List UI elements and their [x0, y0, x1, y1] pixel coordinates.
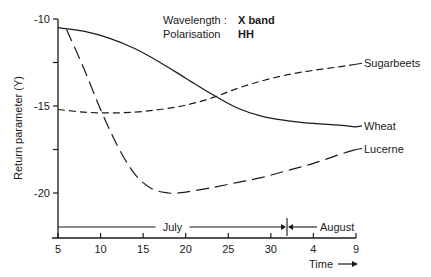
- annotation-wavelength-value: X band: [238, 14, 275, 26]
- x-tick-label: 25: [222, 243, 234, 255]
- annotation-polarisation-value: HH: [238, 28, 254, 40]
- month-band: JulyAugust: [58, 218, 354, 236]
- y-tick-label: -15: [34, 100, 50, 112]
- x-tick-label: 30: [265, 243, 277, 255]
- x-tick-label: 15: [137, 243, 149, 255]
- series-leader-lucerne: [356, 149, 362, 150]
- series-label-wheat: Wheat: [364, 120, 396, 132]
- series-leader-wheat: [356, 126, 362, 127]
- y-axis-title: Return parameter (Y): [12, 76, 24, 180]
- arrow-right-icon: [281, 224, 286, 230]
- series-group: WheatSugarbeetsLucerne: [58, 28, 421, 194]
- chart: -10-15-20 5101520253049 JulyAugust Wheat…: [0, 0, 431, 277]
- month-label-august: August: [320, 221, 354, 233]
- series-label-sugarbeets: Sugarbeets: [364, 57, 421, 69]
- annotation-polarisation-label: Polarisation: [163, 28, 220, 40]
- x-axis-title: Time: [309, 258, 333, 270]
- x-tick-label: 20: [180, 243, 192, 255]
- x-tick-label: 10: [94, 243, 106, 255]
- series-leader-sugarbeets: [356, 63, 362, 64]
- x-tick-label: 9: [353, 243, 359, 255]
- month-label-july: July: [163, 221, 183, 233]
- x-ticks: 5101520253049: [55, 233, 359, 255]
- x-tick-label: 4: [310, 243, 316, 255]
- y-ticks: -10-15-20: [34, 13, 58, 199]
- y-tick-label: -10: [34, 13, 50, 25]
- annotation-wavelength-label: Wavelength :: [163, 14, 227, 26]
- series-line-wheat: [58, 28, 356, 127]
- time-arrow-icon: [338, 261, 358, 267]
- series-line-lucerne: [67, 29, 356, 193]
- series-label-lucerne: Lucerne: [364, 143, 404, 155]
- y-tick-label: -20: [34, 187, 50, 199]
- x-tick-label: 5: [55, 243, 61, 255]
- series-line-sugarbeets: [58, 64, 356, 113]
